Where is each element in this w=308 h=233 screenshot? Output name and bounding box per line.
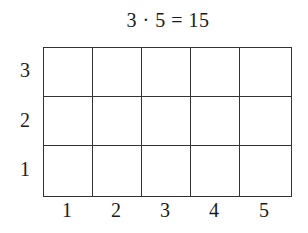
y-axis-label: 3 xyxy=(18,59,32,82)
x-axis-label: 1 xyxy=(57,199,77,222)
grid-row-divider xyxy=(44,145,291,146)
equation-title: 3 · 5 = 15 xyxy=(0,9,308,32)
grid-column-divider xyxy=(141,48,142,196)
x-axis-label: 2 xyxy=(106,199,126,222)
y-axis-label: 1 xyxy=(18,158,32,181)
x-axis-label: 5 xyxy=(254,199,274,222)
multiplication-grid xyxy=(43,47,292,197)
grid-column-divider xyxy=(190,48,191,196)
grid-column-divider xyxy=(92,48,93,196)
x-axis-label: 3 xyxy=(155,199,175,222)
grid-column-divider xyxy=(239,48,240,196)
grid-row-divider xyxy=(44,96,291,97)
y-axis-label: 2 xyxy=(18,109,32,132)
x-axis-label: 4 xyxy=(204,199,224,222)
